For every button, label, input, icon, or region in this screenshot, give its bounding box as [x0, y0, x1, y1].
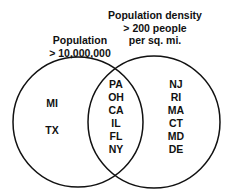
member-label: TX [45, 124, 58, 137]
set-title-population: Population > 10,000,000 [49, 34, 111, 59]
member-label: IL [108, 117, 124, 130]
title-line: Population density [108, 9, 202, 22]
member-label: DE [168, 143, 184, 156]
intersection-labels: PA OH CA IL FL NY [108, 78, 124, 156]
member-label: CA [108, 104, 124, 117]
title-line: > 200 people [108, 22, 202, 35]
title-line: per sq. mi. [108, 34, 202, 47]
member-label: CT [168, 117, 184, 130]
member-label: MD [168, 130, 184, 143]
member-label: NJ [168, 78, 184, 91]
member-label: PA [108, 78, 124, 91]
density-only-labels: NJ RI MA CT MD DE [168, 78, 184, 156]
title-line: > 10,000,000 [49, 47, 111, 60]
member-label: NY [108, 143, 124, 156]
member-label: MI [46, 97, 58, 110]
member-label: FL [108, 130, 124, 143]
member-label: MA [168, 104, 184, 117]
member-label: RI [168, 91, 184, 104]
set-title-density: Population density > 200 people per sq. … [108, 9, 202, 47]
title-line: Population [49, 34, 111, 47]
member-label: OH [108, 91, 124, 104]
